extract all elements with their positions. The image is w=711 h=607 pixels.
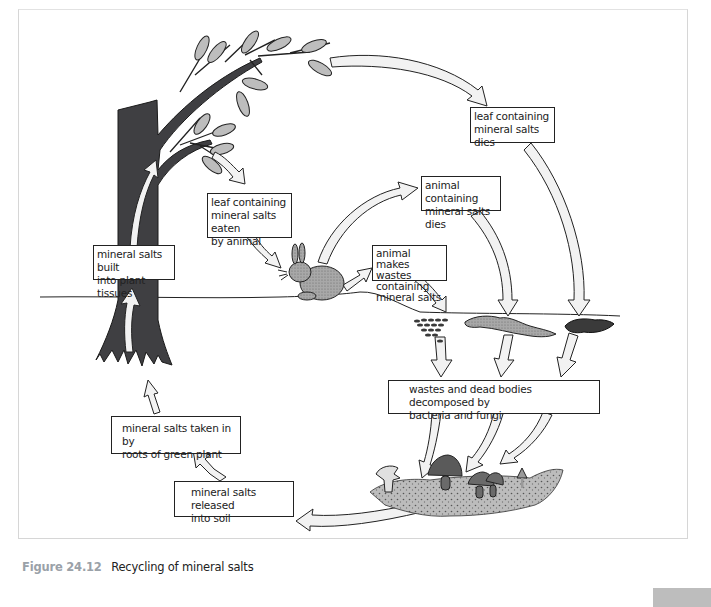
label-line: leaf containing — [474, 110, 551, 123]
label-released-into-soil: mineral salts released into soil — [174, 481, 294, 517]
label-line: leaf containing — [211, 196, 288, 209]
label-line: wastes containing — [376, 270, 443, 292]
mineral-cycle-diagram — [0, 0, 711, 607]
label-line: animal containing — [425, 179, 497, 205]
label-taken-in-by-roots: mineral salts taken in by roots of green… — [111, 416, 241, 454]
label-line: mineral salts taken in by — [122, 422, 237, 448]
rabbit-illustration — [278, 243, 344, 300]
page-edge-bar — [653, 588, 711, 607]
label-line: mineral salts built — [97, 248, 171, 274]
label-line: roots of green plant — [122, 448, 237, 461]
label-leaf-eaten: leaf containing mineral salts eaten by a… — [207, 193, 292, 238]
arrow-rabbit-to-wastes — [343, 268, 372, 291]
label-leaf-dies: leaf containing mineral salts dies — [470, 107, 555, 143]
arrow-leaf-dies-down — [524, 143, 590, 316]
label-animal-wastes: animal makes wastes containing mineral s… — [372, 245, 447, 281]
dead-leaf-illustration — [565, 319, 614, 333]
label-line: wastes and dead bodies decomposed by — [409, 383, 596, 409]
figure-title: Recycling of mineral salts — [111, 560, 253, 574]
label-line: mineral salts — [376, 292, 443, 303]
label-decomposed: wastes and dead bodies decomposed by bac… — [388, 380, 600, 414]
arrow-roots-to-trunk — [144, 380, 160, 414]
label-line: animal makes — [376, 248, 443, 270]
label-animal-dies: animal containing mineral salts dies — [421, 176, 501, 211]
label-line: into plant tissues — [97, 274, 171, 300]
arrow-wastes-to-decomposers — [431, 337, 452, 377]
figure-number: Figure 24.12 — [22, 560, 102, 574]
arrow-leaf-to-decomposers — [557, 333, 578, 377]
label-line: bacteria and fungi — [409, 409, 596, 422]
arrow-leaf-to-death — [330, 55, 487, 106]
arrow-body-to-decomposers — [494, 335, 514, 377]
label-line: mineral salts eaten — [211, 209, 288, 235]
label-line: mineral salts dies — [425, 205, 497, 231]
label-built-into-tissues: mineral salts built into plant tissues — [93, 245, 175, 280]
label-line: mineral salts released — [191, 486, 290, 512]
label-line: by animal — [211, 235, 288, 248]
label-line: mineral salts dies — [474, 123, 551, 149]
label-line: into soil — [191, 512, 290, 525]
dead-body-illustration — [465, 316, 556, 337]
figure-caption: Figure 24.12 Recycling of mineral salts — [22, 560, 253, 574]
